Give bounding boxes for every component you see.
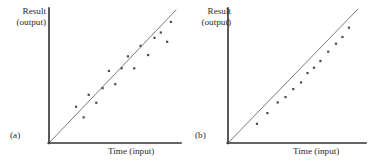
data-point: [170, 21, 172, 23]
chart-panel-b: Result (output) Time (input) (b): [185, 0, 370, 165]
data-point: [88, 94, 90, 96]
data-point: [127, 55, 129, 57]
data-point: [102, 87, 104, 89]
data-point: [300, 81, 302, 83]
data-point: [348, 27, 350, 29]
y-axis-label-a-line2: (output): [0, 17, 46, 28]
data-point: [166, 41, 168, 43]
data-point: [160, 31, 162, 33]
data-point: [256, 123, 258, 125]
data-point: [108, 70, 110, 72]
data-point: [313, 67, 315, 69]
data-point: [75, 106, 77, 108]
trend-line-a: [50, 10, 177, 143]
data-point: [83, 116, 85, 118]
data-point: [139, 45, 141, 47]
y-axis-label-b: Result (output): [185, 6, 231, 28]
figure-container: Result (output) Time (input) (a) Result …: [0, 0, 370, 165]
data-point: [319, 60, 321, 62]
x-axis-label-a: Time (input): [108, 146, 154, 157]
data-point: [327, 51, 329, 53]
y-axis-label-b-line2: (output): [185, 17, 231, 28]
chart-panel-a: Result (output) Time (input) (a): [0, 0, 185, 165]
data-point: [95, 102, 97, 104]
y-axis-label-a: Result (output): [0, 6, 46, 28]
data-point: [133, 67, 135, 69]
data-point: [341, 36, 343, 38]
data-point: [277, 101, 279, 103]
data-point: [292, 88, 294, 90]
panel-label-b: (b): [195, 130, 206, 141]
data-point: [114, 83, 116, 85]
data-point: [335, 43, 337, 45]
data-point: [306, 72, 308, 74]
data-point: [284, 96, 286, 98]
data-points-b: [256, 27, 350, 125]
y-axis-label-a-line1: Result: [0, 6, 46, 17]
y-axis-label-b-line1: Result: [185, 6, 231, 17]
data-point: [147, 54, 149, 56]
panel-label-a: (a): [10, 130, 20, 141]
data-point: [121, 67, 123, 69]
data-point: [153, 37, 155, 39]
data-point: [266, 112, 268, 114]
data-points-a: [75, 21, 172, 119]
trend-line-b: [229, 9, 359, 143]
x-axis-label-b: Time (input): [293, 146, 339, 157]
